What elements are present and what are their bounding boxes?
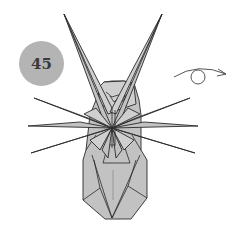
horns: [64, 14, 162, 128]
turn-over-arrow-icon: [174, 69, 226, 84]
origami-diagram: [0, 0, 240, 230]
